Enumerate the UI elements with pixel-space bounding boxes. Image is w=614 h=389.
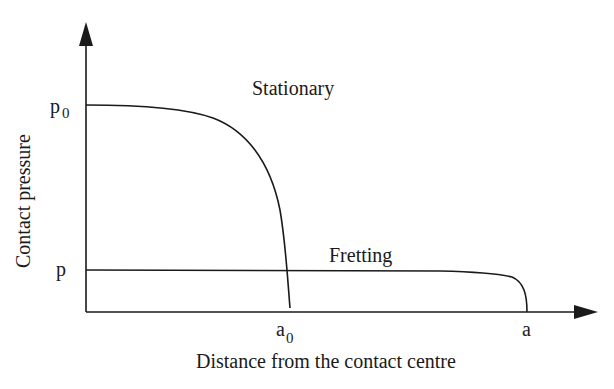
contact-pressure-diagram: Stationary Fretting p 0 p a 0 a Distance… bbox=[0, 0, 614, 389]
y-tick-p0: p 0 bbox=[50, 95, 70, 121]
y-axis-title: Contact pressure bbox=[12, 134, 35, 268]
x-tick-a0-base: a bbox=[276, 318, 285, 340]
y-tick-p: p bbox=[56, 258, 66, 281]
fretting-label: Fretting bbox=[329, 244, 392, 267]
x-tick-a0: a 0 bbox=[276, 318, 294, 346]
y-tick-p0-base: p bbox=[50, 95, 60, 118]
x-tick-a0-sub: 0 bbox=[286, 330, 294, 346]
x-axis-arrow-icon bbox=[574, 305, 598, 319]
stationary-curve bbox=[86, 105, 290, 308]
fretting-curve bbox=[86, 270, 527, 312]
y-tick-p0-sub: 0 bbox=[62, 105, 70, 121]
y-axis-arrow-icon bbox=[79, 22, 93, 46]
stationary-label: Stationary bbox=[252, 77, 334, 100]
x-tick-a: a bbox=[522, 318, 531, 340]
x-axis-title: Distance from the contact centre bbox=[196, 350, 456, 372]
